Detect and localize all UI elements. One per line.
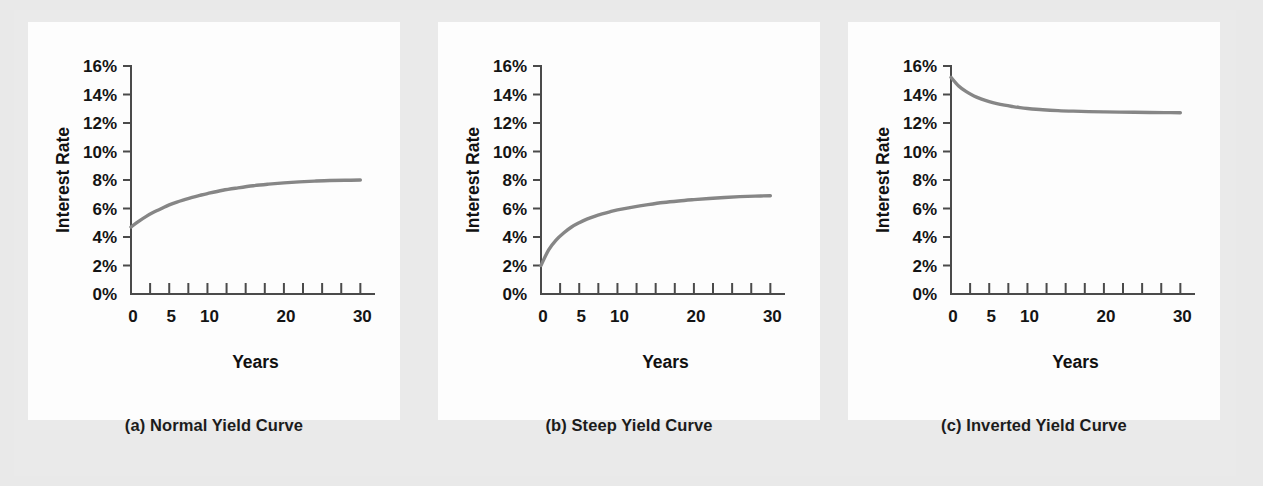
chart-plot-c: 0%2%4%6%8%10%12%14%16%05102030YearsInter… <box>848 22 1220 420</box>
series-line <box>951 77 1180 112</box>
chart-panel-a: 0%2%4%6%8%10%12%14%16%05102030YearsInter… <box>28 22 400 420</box>
x-axis-tick-label: 5 <box>576 307 585 326</box>
x-axis-tick-label: 20 <box>686 307 705 326</box>
x-axis-tick-label: 10 <box>610 307 629 326</box>
x-axis-title: Years <box>1052 352 1099 372</box>
x-axis-tick-label: 0 <box>128 307 137 326</box>
y-axis-tick-label: 8% <box>502 171 527 190</box>
x-axis-title: Years <box>232 352 279 372</box>
y-axis-tick-label: 2% <box>502 257 527 276</box>
y-axis-tick-label: 4% <box>502 228 527 247</box>
y-axis-tick-label: 8% <box>912 171 937 190</box>
panel-caption-b: (b) Steep Yield Curve <box>438 408 820 442</box>
y-axis-tick-label: 6% <box>92 200 117 219</box>
y-axis-tick-label: 14% <box>83 86 117 105</box>
panel-caption-a: (a) Normal Yield Curve <box>28 408 400 442</box>
y-axis-title: Interest Rate <box>463 127 483 233</box>
x-axis-tick-label: 20 <box>276 307 295 326</box>
y-axis-tick-label: 12% <box>903 114 937 133</box>
y-axis-tick-label: 10% <box>903 143 937 162</box>
x-axis-tick-label: 5 <box>166 307 175 326</box>
yield-curve-figure: 0%2%4%6%8%10%12%14%16%05102030YearsInter… <box>0 0 1263 486</box>
y-axis-title: Interest Rate <box>53 127 73 233</box>
y-axis-tick-label: 16% <box>83 57 117 76</box>
y-axis-tick-label: 2% <box>912 257 937 276</box>
y-axis-tick-label: 0% <box>92 285 117 304</box>
x-axis-tick-label: 5 <box>986 307 995 326</box>
y-axis-tick-label: 14% <box>903 86 937 105</box>
y-axis-tick-label: 4% <box>912 228 937 247</box>
y-axis-tick-label: 2% <box>92 257 117 276</box>
chart-panel-c: 0%2%4%6%8%10%12%14%16%05102030YearsInter… <box>848 22 1220 420</box>
panel-caption-c: (c) Inverted Yield Curve <box>848 408 1220 442</box>
y-axis-tick-label: 4% <box>92 228 117 247</box>
x-axis-tick-label: 0 <box>538 307 547 326</box>
x-axis-tick-label: 30 <box>763 307 782 326</box>
x-axis-tick-label: 20 <box>1096 307 1115 326</box>
x-axis-title: Years <box>642 352 689 372</box>
x-axis-tick-label: 30 <box>1173 307 1192 326</box>
y-axis-tick-label: 16% <box>493 57 527 76</box>
panels-row: 0%2%4%6%8%10%12%14%16%05102030YearsInter… <box>0 0 1263 486</box>
x-axis-tick-label: 10 <box>200 307 219 326</box>
chart-plot-b: 0%2%4%6%8%10%12%14%16%05102030YearsInter… <box>438 22 820 420</box>
x-axis-tick-label: 0 <box>948 307 957 326</box>
series-line <box>131 180 360 227</box>
y-axis-tick-label: 14% <box>493 86 527 105</box>
x-axis-tick-label: 30 <box>353 307 372 326</box>
y-axis-tick-label: 16% <box>903 57 937 76</box>
y-axis-tick-label: 12% <box>493 114 527 133</box>
chart-plot-a: 0%2%4%6%8%10%12%14%16%05102030YearsInter… <box>28 22 400 420</box>
y-axis-tick-label: 6% <box>502 200 527 219</box>
y-axis-tick-label: 6% <box>912 200 937 219</box>
y-axis-tick-label: 10% <box>83 143 117 162</box>
y-axis-title: Interest Rate <box>873 127 893 233</box>
y-axis-tick-label: 0% <box>912 285 937 304</box>
y-axis-tick-label: 0% <box>502 285 527 304</box>
y-axis-tick-label: 10% <box>493 143 527 162</box>
chart-panel-b: 0%2%4%6%8%10%12%14%16%05102030YearsInter… <box>438 22 820 420</box>
x-axis-tick-label: 10 <box>1020 307 1039 326</box>
y-axis-tick-label: 8% <box>92 171 117 190</box>
y-axis-tick-label: 12% <box>83 114 117 133</box>
series-line <box>541 196 770 266</box>
